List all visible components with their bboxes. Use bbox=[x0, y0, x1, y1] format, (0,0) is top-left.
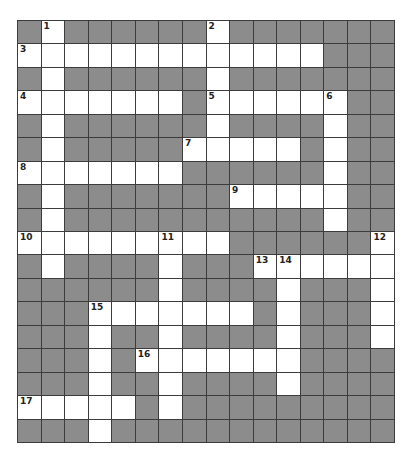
crossword-cell[interactable] bbox=[42, 44, 65, 66]
crossword-cell[interactable] bbox=[65, 91, 88, 113]
crossword-cell[interactable] bbox=[324, 115, 347, 137]
crossword-cell[interactable] bbox=[277, 279, 300, 301]
crossword-cell[interactable] bbox=[42, 162, 65, 184]
crossword-cell[interactable] bbox=[371, 279, 394, 301]
crossword-cell[interactable] bbox=[42, 185, 65, 207]
crossword-cell[interactable]: 17 bbox=[18, 396, 41, 418]
crossword-cell[interactable] bbox=[89, 232, 112, 254]
crossword-cell[interactable]: 15 bbox=[89, 302, 112, 324]
crossword-cell[interactable] bbox=[42, 91, 65, 113]
crossword-cell[interactable] bbox=[183, 349, 206, 371]
crossword-cell[interactable] bbox=[277, 302, 300, 324]
crossword-cell[interactable] bbox=[136, 91, 159, 113]
crossword-cell[interactable]: 11 bbox=[159, 232, 182, 254]
crossword-cell[interactable] bbox=[301, 185, 324, 207]
crossword-cell[interactable] bbox=[207, 68, 230, 90]
crossword-cell[interactable] bbox=[159, 91, 182, 113]
crossword-cell[interactable]: 2 bbox=[207, 21, 230, 43]
crossword-cell[interactable] bbox=[136, 44, 159, 66]
crossword-cell[interactable] bbox=[183, 232, 206, 254]
crossword-cell[interactable] bbox=[112, 396, 135, 418]
crossword-cell[interactable]: 9 bbox=[230, 185, 253, 207]
crossword-cell[interactable] bbox=[324, 255, 347, 277]
crossword-cell[interactable] bbox=[136, 232, 159, 254]
crossword-cell[interactable] bbox=[65, 162, 88, 184]
crossword-cell[interactable] bbox=[207, 302, 230, 324]
crossword-cell[interactable]: 12 bbox=[371, 232, 394, 254]
crossword-cell[interactable]: 8 bbox=[18, 162, 41, 184]
crossword-cell[interactable] bbox=[89, 373, 112, 395]
crossword-cell[interactable] bbox=[65, 232, 88, 254]
crossword-cell[interactable] bbox=[277, 326, 300, 348]
crossword-cell[interactable] bbox=[159, 44, 182, 66]
crossword-cell[interactable]: 5 bbox=[207, 91, 230, 113]
crossword-cell[interactable] bbox=[112, 44, 135, 66]
crossword-cell[interactable] bbox=[183, 44, 206, 66]
crossword-cell[interactable] bbox=[230, 91, 253, 113]
crossword-cell[interactable] bbox=[207, 115, 230, 137]
crossword-cell[interactable] bbox=[42, 209, 65, 231]
crossword-cell[interactable] bbox=[277, 349, 300, 371]
crossword-cell[interactable] bbox=[254, 349, 277, 371]
crossword-cell[interactable] bbox=[324, 185, 347, 207]
crossword-cell[interactable] bbox=[324, 209, 347, 231]
crossword-cell[interactable] bbox=[277, 44, 300, 66]
crossword-cell[interactable]: 1 bbox=[42, 21, 65, 43]
crossword-cell[interactable] bbox=[230, 349, 253, 371]
crossword-cell[interactable] bbox=[277, 185, 300, 207]
crossword-cell[interactable] bbox=[112, 162, 135, 184]
crossword-cell[interactable] bbox=[159, 373, 182, 395]
crossword-cell[interactable]: 10 bbox=[18, 232, 41, 254]
crossword-cell[interactable] bbox=[112, 302, 135, 324]
crossword-cell[interactable] bbox=[89, 420, 112, 442]
crossword-cell[interactable] bbox=[254, 185, 277, 207]
crossword-cell[interactable] bbox=[230, 302, 253, 324]
crossword-cell[interactable] bbox=[136, 302, 159, 324]
crossword-cell[interactable] bbox=[89, 396, 112, 418]
crossword-cell[interactable] bbox=[254, 44, 277, 66]
crossword-cell[interactable] bbox=[112, 232, 135, 254]
crossword-cell[interactable] bbox=[42, 68, 65, 90]
crossword-cell[interactable]: 3 bbox=[18, 44, 41, 66]
crossword-cell[interactable] bbox=[183, 302, 206, 324]
crossword-cell[interactable]: 7 bbox=[183, 138, 206, 160]
crossword-cell[interactable] bbox=[65, 44, 88, 66]
crossword-cell[interactable] bbox=[42, 138, 65, 160]
crossword-cell[interactable] bbox=[159, 255, 182, 277]
crossword-cell[interactable] bbox=[89, 326, 112, 348]
crossword-cell[interactable] bbox=[89, 349, 112, 371]
crossword-cell[interactable] bbox=[324, 162, 347, 184]
crossword-cell[interactable] bbox=[230, 138, 253, 160]
crossword-cell[interactable] bbox=[89, 162, 112, 184]
crossword-cell[interactable] bbox=[159, 326, 182, 348]
crossword-cell[interactable] bbox=[42, 232, 65, 254]
crossword-cell[interactable] bbox=[371, 326, 394, 348]
crossword-cell[interactable] bbox=[42, 396, 65, 418]
crossword-cell[interactable] bbox=[324, 138, 347, 160]
crossword-cell[interactable] bbox=[277, 373, 300, 395]
crossword-cell[interactable] bbox=[136, 162, 159, 184]
crossword-cell[interactable] bbox=[112, 91, 135, 113]
crossword-cell[interactable] bbox=[277, 138, 300, 160]
crossword-cell[interactable]: 4 bbox=[18, 91, 41, 113]
crossword-cell[interactable] bbox=[65, 396, 88, 418]
crossword-cell[interactable] bbox=[159, 162, 182, 184]
crossword-cell[interactable] bbox=[254, 91, 277, 113]
crossword-cell[interactable] bbox=[207, 44, 230, 66]
crossword-cell[interactable] bbox=[207, 232, 230, 254]
crossword-cell[interactable] bbox=[207, 138, 230, 160]
crossword-cell[interactable] bbox=[371, 302, 394, 324]
crossword-cell[interactable] bbox=[301, 91, 324, 113]
crossword-cell[interactable]: 14 bbox=[277, 255, 300, 277]
crossword-cell[interactable] bbox=[301, 44, 324, 66]
crossword-cell[interactable] bbox=[277, 91, 300, 113]
crossword-cell[interactable] bbox=[89, 44, 112, 66]
crossword-cell[interactable] bbox=[42, 255, 65, 277]
crossword-cell[interactable] bbox=[348, 255, 371, 277]
crossword-cell[interactable]: 16 bbox=[136, 349, 159, 371]
crossword-cell[interactable] bbox=[230, 44, 253, 66]
crossword-cell[interactable]: 13 bbox=[254, 255, 277, 277]
crossword-cell[interactable] bbox=[159, 279, 182, 301]
crossword-cell[interactable] bbox=[159, 302, 182, 324]
crossword-cell[interactable] bbox=[89, 91, 112, 113]
